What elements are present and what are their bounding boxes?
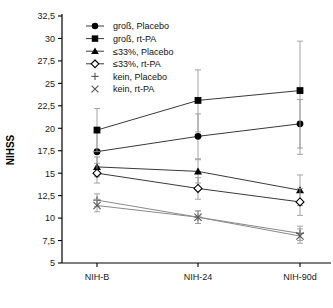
x-tick-label: NIH-B xyxy=(85,272,110,282)
y-tick-label: 12,5 xyxy=(37,191,55,201)
marker-filled-circle xyxy=(92,23,98,29)
y-tick-label: 30 xyxy=(45,34,55,44)
marker-filled-square xyxy=(92,35,98,41)
marker-filled-square xyxy=(297,87,304,94)
y-tick-label: 15 xyxy=(45,169,55,179)
y-tick-label: 7,5 xyxy=(42,236,55,246)
x-tick-label: NIH-24 xyxy=(184,272,213,282)
y-tick-label: 27,5 xyxy=(37,56,55,66)
legend-label: kein, rt-PA xyxy=(113,84,154,94)
x-tick-label: NIH-90d xyxy=(283,272,317,282)
marker-filled-circle xyxy=(195,133,202,140)
y-tick-label: 32,5 xyxy=(37,11,55,21)
legend-label: groß, rt-PA xyxy=(113,34,156,44)
legend-label: kein, Placebo xyxy=(113,72,167,82)
y-tick-label: 25 xyxy=(45,79,55,89)
y-tick-label: 17,5 xyxy=(37,146,55,156)
y-tick-label: 20 xyxy=(45,124,55,134)
chart-canvas: 32,53027,52522,52017,51512,5107,55 NIH-B… xyxy=(0,0,333,308)
y-tick-label: 5 xyxy=(50,258,55,268)
y-tick-label: 10 xyxy=(45,213,55,223)
y-tick-label: 22,5 xyxy=(37,101,55,111)
nihss-line-chart: 32,53027,52522,52017,51512,5107,55 NIH-B… xyxy=(0,0,333,308)
marker-filled-square xyxy=(195,97,202,104)
legend-label: ≤33%, rt-PA xyxy=(113,59,161,69)
marker-filled-square xyxy=(94,127,101,134)
legend-label: ≤33%, Placebo xyxy=(113,47,173,57)
legend-label: groß, Placebo xyxy=(113,21,169,31)
y-axis-title: NIHSS xyxy=(5,134,16,165)
